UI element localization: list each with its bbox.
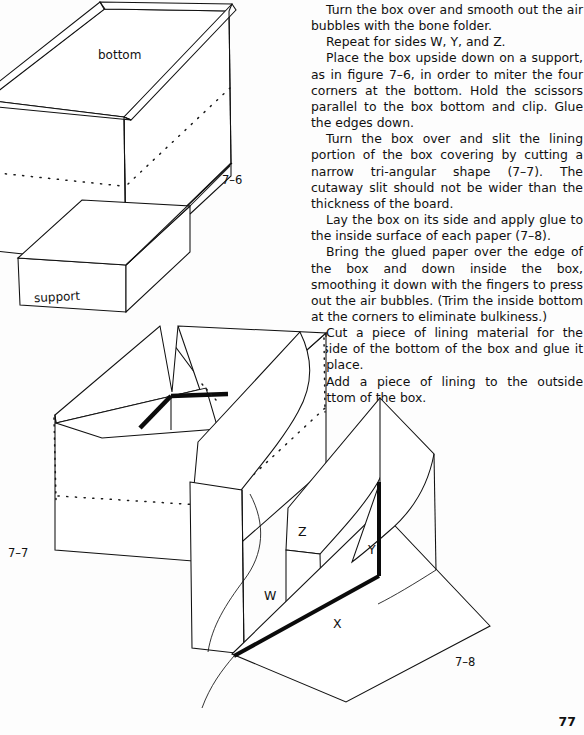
figure-caption-7-7: 7–7: [8, 546, 28, 560]
figure-caption-7-8: 7–8: [455, 655, 475, 669]
face-label-w: W: [264, 588, 276, 603]
paragraph: Lay the box on its side and apply glue t…: [311, 212, 583, 244]
label-bottom: bottom: [98, 48, 141, 62]
paragraph: Bring the glued paper over the edge of t…: [311, 244, 583, 325]
figure-7-8-illustration: [228, 390, 538, 735]
paper-flap-w: [190, 482, 244, 654]
bold-inside-corner-edge-right: [171, 394, 228, 396]
figure-7-6-illustration: [0, 0, 300, 330]
paragraph: Place the box upside down on a support, …: [311, 50, 583, 131]
bottom-curve-tail: [202, 656, 234, 708]
face-label-x: X: [333, 616, 342, 631]
paper-flap-right-edge: [434, 454, 436, 570]
figure-caption-7-6: 7–6: [222, 173, 242, 187]
face-label-y: Y: [368, 542, 376, 557]
label-support: support: [34, 289, 81, 305]
book-page: Turn the box over and smooth out the air…: [0, 0, 584, 735]
face-label-z: Z: [298, 524, 307, 539]
page-number: 77: [559, 714, 576, 729]
paragraph: Turn the box over and smooth out the air…: [311, 2, 583, 34]
box-bottom-lip-top: [100, 2, 232, 11]
paragraph: Repeat for sides W, Y, and Z.: [311, 34, 583, 50]
paragraph: Turn the box over and slit the lining po…: [311, 131, 583, 212]
